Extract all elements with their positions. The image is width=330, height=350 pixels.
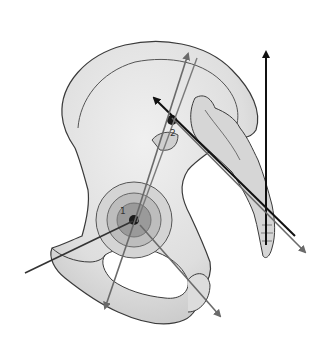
pelvis-force-diagram [0, 0, 330, 350]
acetabulum [96, 182, 172, 258]
hip-bone [51, 42, 258, 324]
label-1: 1 [120, 206, 126, 216]
label-2: 2 [170, 128, 176, 138]
sacrum-coccyx [191, 96, 275, 258]
